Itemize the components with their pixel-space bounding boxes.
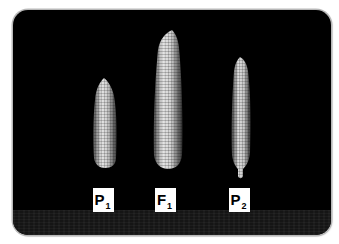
label-p1-main: P xyxy=(94,191,104,208)
corn-ear-f1 xyxy=(152,30,184,169)
label-f1-main: F xyxy=(157,191,166,208)
label-f1-sub: 1 xyxy=(167,201,172,211)
corn-ear-p1 xyxy=(92,78,118,168)
corn-ear-p2 xyxy=(230,57,252,179)
label-f1: F1 xyxy=(155,188,176,212)
label-p2-main: P xyxy=(230,191,240,208)
label-p2-sub: 2 xyxy=(242,201,247,211)
label-p1-sub: 1 xyxy=(106,201,111,211)
label-p2: P2 xyxy=(229,188,250,212)
table-surface xyxy=(13,210,331,235)
label-p1: P1 xyxy=(93,188,114,212)
photo-frame: P1 F1 P2 xyxy=(13,10,331,235)
